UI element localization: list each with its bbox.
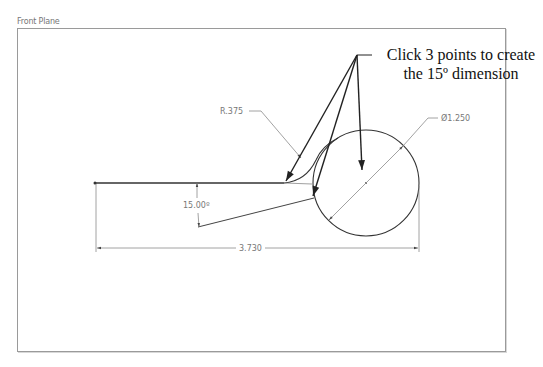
diameter-dimension-text[interactable]: Ø1.250 — [441, 113, 470, 123]
callout-arrows — [286, 55, 372, 196]
callout-arrow-2 — [313, 55, 357, 196]
diameter-dimension[interactable]: Ø1.250 — [329, 113, 470, 220]
angle-dimension[interactable]: 15.00º — [183, 183, 210, 227]
length-dimension[interactable]: 3.730 — [96, 184, 419, 253]
callout-arrow-3 — [357, 55, 362, 170]
construction-line[interactable] — [284, 183, 312, 184]
instruction-callout: Click 3 points to create the 15º dimensi… — [376, 45, 543, 83]
angle-dimension-text[interactable]: 15.00º — [183, 201, 210, 210]
sketch-geometry[interactable] — [94, 130, 420, 236]
callout-arrow-1 — [286, 55, 357, 181]
radius-dimension-text[interactable]: R.375 — [220, 107, 243, 116]
dimensions[interactable]: R.375 Ø1.250 15.00º 3.730 — [96, 107, 470, 253]
callout-line-2: the 15º dimension — [376, 64, 543, 83]
callout-line-1: Click 3 points to create — [376, 45, 543, 64]
angled-line[interactable] — [198, 198, 314, 227]
radius-dimension[interactable]: R.375 — [220, 107, 301, 158]
length-dimension-text[interactable]: 3.730 — [239, 244, 262, 253]
